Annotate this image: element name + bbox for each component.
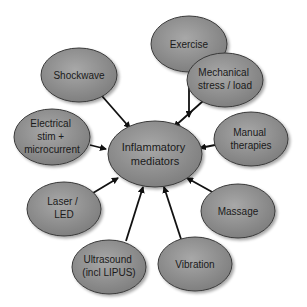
node-label-exercise: Exercise bbox=[170, 39, 209, 50]
node-shockwave: Shockwave bbox=[41, 48, 117, 102]
node-label-mechanical-stress-line2: stress / load bbox=[198, 80, 252, 91]
node-label-electrical-stim-line1: Electrical bbox=[30, 118, 71, 129]
node-label-massage: Massage bbox=[218, 206, 259, 217]
node-label-shockwave: Shockwave bbox=[53, 70, 105, 81]
node-label-mechanical-stress-line1: Mechanical bbox=[198, 67, 249, 78]
node-electrical-stim: Electrical stim + microcurrent bbox=[14, 109, 90, 165]
node-manual-therapies: Manual therapies bbox=[214, 112, 288, 166]
center-label-line1: Inflammatory bbox=[122, 141, 186, 153]
node-label-electrical-stim-line2: stim + bbox=[37, 131, 64, 142]
arrow-massage bbox=[187, 178, 214, 193]
center-label-line2: mediators bbox=[131, 155, 180, 167]
node-label-laser-led-line2: LED bbox=[54, 209, 73, 220]
svg-text:Massage: Massage bbox=[218, 206, 259, 217]
arrow-manual-therapies bbox=[200, 145, 215, 148]
svg-text:Vibration: Vibration bbox=[175, 259, 214, 270]
node-label-electrical-stim-line3: microcurrent bbox=[24, 144, 80, 155]
arrow-vibration bbox=[164, 187, 181, 239]
node-ultrasound: Ultrasound (incl LIPUS) bbox=[72, 240, 146, 294]
node-mechanical-stress: Mechanical stress / load bbox=[187, 53, 263, 107]
arrow-electrical-stim bbox=[90, 145, 106, 149]
svg-text:Shockwave: Shockwave bbox=[53, 70, 105, 81]
arrow-laser-led bbox=[93, 178, 118, 193]
node-label-ultrasound-line2: (incl LIPUS) bbox=[82, 267, 135, 278]
node-label-ultrasound-line1: Ultrasound bbox=[83, 254, 131, 265]
node-label-laser-led-line1: Laser / bbox=[47, 196, 78, 207]
inflammatory-mediators-diagram: Exercise Mechanical stress / load Shockw… bbox=[0, 0, 307, 307]
arrow-ultrasound bbox=[126, 187, 143, 241]
node-inflammatory-mediators: Inflammatory mediators bbox=[108, 121, 202, 187]
node-laser-led: Laser / LED bbox=[27, 182, 101, 236]
svg-text:Exercise: Exercise bbox=[170, 39, 209, 50]
node-label-manual-therapies-line1: Manual bbox=[233, 127, 266, 138]
node-vibration: Vibration bbox=[158, 237, 232, 291]
node-label-vibration: Vibration bbox=[175, 259, 214, 270]
node-massage: Massage bbox=[201, 184, 275, 238]
node-label-manual-therapies-line2: therapies bbox=[230, 140, 271, 151]
arrow-shockwave bbox=[102, 96, 130, 128]
